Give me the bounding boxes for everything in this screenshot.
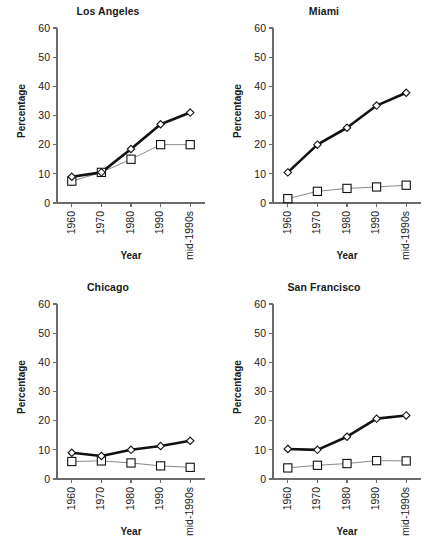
y-tick-label: 30 — [38, 385, 50, 397]
data-point-diamond — [187, 109, 194, 116]
x-tick-label: 1980 — [340, 487, 352, 511]
plot-area: 01020304050601960197019801990mid-1990s — [216, 276, 432, 552]
y-tick-label: 40 — [38, 356, 50, 368]
data-point-diamond — [68, 449, 75, 456]
data-point-square — [402, 181, 410, 189]
y-tick-label: 20 — [254, 138, 266, 150]
data-point-square — [186, 141, 194, 149]
plot-area: 01020304050601960197019801990mid-1990s — [0, 0, 216, 276]
x-tick-label: 1990 — [153, 211, 165, 235]
y-tick-label: 50 — [254, 327, 266, 339]
y-tick-label: 40 — [254, 356, 266, 368]
y-tick-label: 10 — [254, 444, 266, 456]
data-point-square — [402, 457, 410, 465]
x-tick-label: 1970 — [94, 211, 106, 235]
y-tick-label: 10 — [254, 168, 266, 180]
data-point-square — [373, 183, 381, 191]
x-tick-label: mid-1990s — [399, 211, 411, 260]
y-tick-label: 60 — [254, 22, 266, 34]
y-tick-label: 0 — [260, 473, 266, 485]
data-point-diamond — [187, 437, 194, 444]
x-tick-label: mid-1990s — [399, 487, 411, 536]
x-tick-label: 1970 — [310, 211, 322, 235]
y-tick-label: 0 — [44, 473, 50, 485]
y-tick-label: 30 — [38, 109, 50, 121]
series-line-diamond — [288, 93, 406, 173]
y-tick-label: 60 — [38, 22, 50, 34]
x-tick-label: 1960 — [281, 211, 293, 235]
x-tick-label: 1960 — [65, 487, 77, 511]
y-tick-label: 0 — [44, 197, 50, 209]
chart-panel-san-francisco: San Francisco Percentage Year 0102030405… — [216, 276, 432, 552]
y-tick-label: 20 — [254, 414, 266, 426]
y-tick-label: 0 — [260, 197, 266, 209]
plot-area: 01020304050601960197019801990mid-1990s — [0, 276, 216, 552]
y-tick-label: 10 — [38, 168, 50, 180]
data-point-diamond — [284, 445, 291, 452]
data-point-diamond — [314, 446, 321, 453]
data-point-square — [313, 461, 321, 469]
data-point-diamond — [157, 442, 164, 449]
y-tick-label: 40 — [254, 80, 266, 92]
x-tick-label: 1990 — [153, 487, 165, 511]
y-tick-label: 50 — [38, 327, 50, 339]
y-tick-label: 50 — [38, 51, 50, 63]
chart-panel-miami: Miami Percentage Year 010203040506019601… — [216, 0, 432, 276]
figure-panel-grid: Los Angeles Percentage Year 010203040506… — [0, 0, 432, 553]
data-point-diamond — [403, 89, 410, 96]
data-point-square — [373, 457, 381, 465]
chart-panel-chicago: Chicago Percentage Year 0102030405060196… — [0, 276, 216, 552]
data-point-square — [157, 462, 165, 470]
y-tick-label: 50 — [254, 51, 266, 63]
y-tick-label: 30 — [254, 385, 266, 397]
y-tick-label: 20 — [38, 138, 50, 150]
y-tick-label: 10 — [38, 444, 50, 456]
plot-area: 01020304050601960197019801990mid-1990s — [216, 0, 432, 276]
data-point-square — [127, 155, 135, 163]
data-point-square — [343, 459, 351, 467]
x-tick-label: 1980 — [124, 487, 136, 511]
x-tick-label: 1960 — [281, 487, 293, 511]
data-point-square — [313, 187, 321, 195]
x-tick-label: 1970 — [310, 487, 322, 511]
data-point-square — [157, 141, 165, 149]
data-point-square — [68, 457, 76, 465]
y-tick-label: 20 — [38, 414, 50, 426]
x-tick-label: mid-1990s — [183, 211, 195, 260]
data-point-square — [127, 459, 135, 467]
x-tick-label: mid-1990s — [183, 487, 195, 536]
data-point-diamond — [403, 412, 410, 419]
x-tick-label: 1980 — [340, 211, 352, 235]
y-tick-label: 30 — [254, 109, 266, 121]
data-point-square — [284, 464, 292, 472]
data-point-square — [186, 463, 194, 471]
x-tick-label: 1990 — [369, 487, 381, 511]
y-tick-label: 40 — [38, 80, 50, 92]
chart-panel-los-angeles: Los Angeles Percentage Year 010203040506… — [0, 0, 216, 276]
x-tick-label: 1960 — [65, 211, 77, 235]
x-tick-label: 1980 — [124, 211, 136, 235]
y-tick-label: 60 — [38, 298, 50, 310]
data-point-square — [343, 184, 351, 192]
y-tick-label: 60 — [254, 298, 266, 310]
data-point-square — [284, 195, 292, 203]
x-tick-label: 1990 — [369, 211, 381, 235]
x-tick-label: 1970 — [94, 487, 106, 511]
data-point-diamond — [127, 446, 134, 453]
